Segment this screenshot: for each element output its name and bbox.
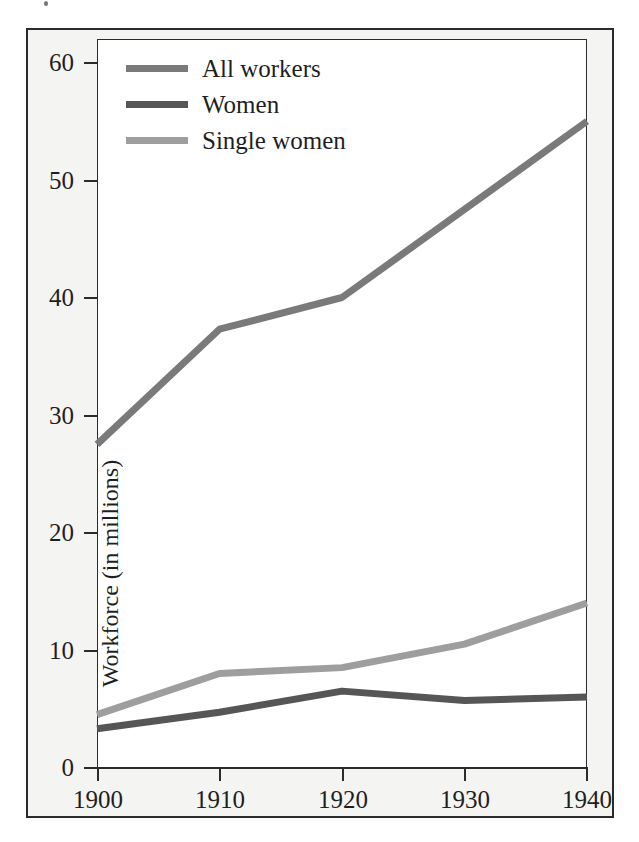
legend-swatch-single-women	[126, 137, 188, 144]
y-axis-title: Workforce (in millions)	[97, 404, 124, 744]
x-tick-1900	[97, 768, 99, 781]
y-tick-20	[84, 532, 97, 534]
x-tick-1930	[464, 768, 466, 781]
x-tick-1910	[219, 768, 221, 781]
y-axis-label-50: 50	[14, 168, 74, 193]
x-axis-label-1940: 1940	[527, 787, 639, 812]
y-axis-label-20: 20	[14, 520, 74, 545]
legend-label-single-women: Single women	[202, 128, 346, 153]
figure-canvas: 60 50 40 30 20 10 0 1900 1910 1920 1930 …	[0, 0, 639, 842]
y-tick-30	[84, 415, 97, 417]
scan-artifact-speck	[44, 1, 48, 6]
y-axis-label-10: 10	[14, 638, 74, 663]
y-axis-label-30: 30	[14, 403, 74, 428]
y-tick-40	[84, 297, 97, 299]
y-tick-0	[84, 767, 97, 769]
y-axis-label-60: 60	[14, 50, 74, 75]
x-axis-label-1930: 1930	[405, 787, 525, 812]
x-axis-label-1900: 1900	[38, 787, 158, 812]
legend-item-all-workers: All workers	[126, 50, 386, 86]
y-tick-50	[84, 180, 97, 182]
y-tick-60	[84, 62, 97, 64]
legend-swatch-women	[126, 101, 188, 108]
legend-item-women: Women	[126, 86, 386, 122]
y-axis-label-0: 0	[14, 755, 74, 780]
x-axis-label-1920: 1920	[283, 787, 403, 812]
legend-swatch-all-workers	[126, 65, 188, 72]
x-tick-1920	[342, 768, 344, 781]
legend: All workers Women Single women	[126, 50, 386, 158]
y-axis-label-40: 40	[14, 285, 74, 310]
y-tick-10	[84, 650, 97, 652]
legend-label-women: Women	[202, 92, 279, 117]
x-tick-1940	[586, 768, 588, 781]
x-axis-label-1910: 1910	[160, 787, 280, 812]
legend-label-all-workers: All workers	[202, 56, 321, 81]
legend-item-single-women: Single women	[126, 122, 386, 158]
